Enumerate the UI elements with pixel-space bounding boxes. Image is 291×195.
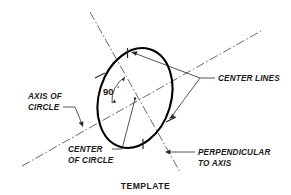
center-of-circle-label-line1: CENTER [68,145,103,154]
axis-of-circle-label-line1: AXIS OF [27,92,63,101]
center-lines-arrow-upper [131,51,137,56]
axis-of-circle-leader-arrow [79,121,84,127]
angle-value-text: 90 [103,86,114,97]
center-point-marker [134,97,136,99]
center-of-circle-leader [112,99,135,149]
angle-arrow-head-upper [122,77,125,81]
technical-drawing-canvas: 90 ° CENTER LINES AXIS OF CIRCLE CENTER … [0,0,291,195]
axis-of-circle-label-line2: CIRCLE [28,103,60,112]
axis-of-circle-leader [63,107,82,124]
angle-degree-symbol: ° [117,85,119,91]
center-lines-leader-lower [172,78,200,116]
perpendicular-to-axis-label-line2: TO AXIS [198,159,232,168]
center-lines-label: CENTER LINES [218,74,280,83]
perpendicular-to-axis-label-line1: PERPENDICULAR [198,148,270,157]
angle-arrow-head-lower [112,100,116,103]
figure-caption: TEMPLATE [121,181,171,191]
center-of-circle-label-line2: OF CIRCLE [68,156,114,165]
center-lines-leader-upper [134,53,200,78]
template-drawing-figure: 90 ° CENTER LINES AXIS OF CIRCLE CENTER … [0,0,291,195]
